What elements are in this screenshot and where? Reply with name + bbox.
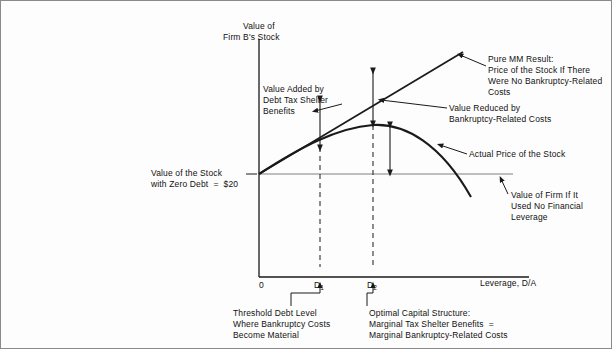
threshold-label-line2: Where Bankruptcy Costs bbox=[233, 319, 330, 330]
threshold-label-line1: Threshold Debt Level bbox=[233, 308, 317, 319]
x-tick-d2: D2 bbox=[367, 280, 377, 293]
no-leverage-leader bbox=[501, 179, 508, 194]
actual-price-label: Actual Price of the Stock bbox=[469, 149, 565, 160]
value-reduced-label-line1: Value Reduced by bbox=[449, 103, 520, 114]
no-leverage-label-line2: Used No Financial bbox=[511, 201, 583, 212]
x-tick-d2-subscript: 2 bbox=[373, 284, 377, 291]
x-tick-d1-subscript: 1 bbox=[320, 284, 324, 291]
optimal-label-line3: Marginal Bankruptcy-Related Costs bbox=[369, 330, 508, 341]
zero-debt-label-line2: with Zero Debt = $20 bbox=[151, 179, 238, 190]
value-reduced-leader bbox=[381, 100, 447, 108]
tax-shelter-label-line2: Debt Tax Shelter bbox=[263, 95, 328, 106]
y-axis-title-line2: Firm B's Stock bbox=[223, 32, 280, 43]
optimal-label-line2: Marginal Tax Shelter Benefits = bbox=[369, 319, 494, 330]
pure-mm-label-line3: Were No Bankruptcy-Related bbox=[488, 76, 602, 87]
y-axis-title-line1: Value of bbox=[243, 21, 275, 32]
actual-price-leader bbox=[440, 145, 467, 154]
pure-mm-label-line2: Price of the Stock If There bbox=[488, 65, 590, 76]
zero-debt-label-line1: Value of the Stock bbox=[151, 168, 222, 179]
x-tick-d1: D1 bbox=[314, 280, 324, 293]
no-leverage-label-line3: Leverage bbox=[511, 212, 548, 223]
pure-mm-label-line4: Costs bbox=[488, 87, 510, 98]
x-axis-title: Leverage, D/A bbox=[480, 278, 536, 289]
actual-price-curve bbox=[259, 125, 471, 197]
figure-frame: Value of Firm B's Stock 0 D1 D2 Leverage… bbox=[0, 0, 612, 349]
no-leverage-label-line1: Value of Firm If It bbox=[511, 190, 578, 201]
threshold-label-line3: Become Material bbox=[233, 330, 299, 341]
tax-shelter-label-line3: Benefits bbox=[263, 106, 295, 117]
pure-mm-label-line1: Pure MM Result: bbox=[488, 54, 554, 65]
pure-mm-leader bbox=[460, 55, 486, 66]
optimal-label-line1: Optimal Capital Structure: bbox=[369, 308, 470, 319]
value-reduced-label-line2: Bankruptcy-Related Costs bbox=[449, 114, 551, 125]
x-tick-origin: 0 bbox=[259, 280, 264, 291]
tax-shelter-label-line1: Value Added by bbox=[263, 84, 324, 95]
